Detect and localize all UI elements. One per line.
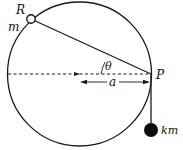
- angle-label: θ: [105, 60, 112, 73]
- point-label: P: [155, 68, 165, 82]
- hanging-mass-label: km: [161, 124, 178, 137]
- radius-arrowhead-right: [143, 80, 150, 84]
- hanging-mass: [144, 123, 158, 137]
- ring-mass-label: m: [8, 20, 19, 34]
- ring-on-circle-diagram: R m θ P a km: [0, 0, 183, 150]
- ring-r: [27, 15, 35, 23]
- radius-label: a: [109, 75, 116, 89]
- center-marker: [74, 72, 80, 76]
- string-r-to-p: [31, 19, 151, 74]
- ring-label: R: [15, 3, 25, 17]
- radius-arrowhead-left: [80, 80, 87, 84]
